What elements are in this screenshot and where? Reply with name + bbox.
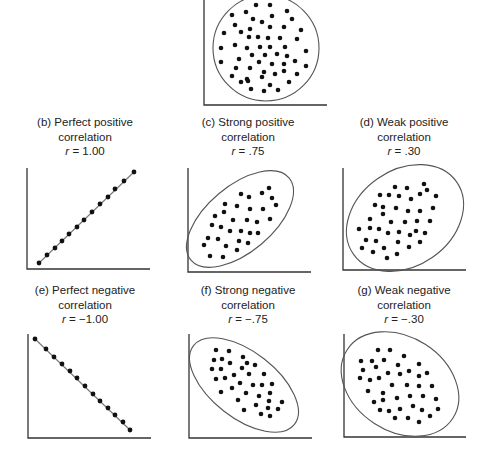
panel-a-points — [219, 3, 309, 94]
caption-d-line2: correlation — [326, 130, 482, 145]
panel-c-outline — [170, 153, 310, 286]
caption-d-r: r = .30 — [326, 144, 482, 159]
panel-f-outline — [173, 320, 314, 451]
caption-g-line1: (g) Weak negative — [326, 283, 482, 298]
caption-e-line1: (e) Perfect negative — [0, 283, 170, 298]
caption-d: (d) Weak positive correlation r = .30 — [326, 115, 482, 159]
caption-e: (e) Perfect negative correlation r = −1.… — [0, 283, 170, 327]
correlation-figure — [0, 0, 486, 465]
caption-b: (b) Perfect positive correlation r = 1.0… — [0, 115, 170, 159]
panel-d-axes — [343, 168, 466, 270]
caption-b-line2: correlation — [0, 130, 170, 145]
caption-b-line1: (b) Perfect positive — [0, 115, 170, 130]
caption-e-r: r = −1.00 — [0, 312, 170, 327]
caption-f-line2: correlation — [168, 298, 328, 313]
caption-f: (f) Strong negative correlation r = −.75 — [168, 283, 328, 327]
caption-c: (c) Strong positive correlation r = .75 — [168, 115, 328, 159]
data-points — [33, 3, 441, 433]
caption-c-line1: (c) Strong positive — [168, 115, 328, 130]
panel-f-points — [210, 348, 285, 419]
caption-b-r: r = 1.00 — [0, 144, 170, 159]
caption-g-r: r = −.30 — [326, 312, 482, 327]
panel-d-points — [357, 182, 439, 261]
panel-g-outline — [322, 310, 479, 457]
caption-f-r: r = −.75 — [168, 312, 328, 327]
caption-g: (g) Weak negative correlation r = −.30 — [326, 283, 482, 327]
panel-d-outline — [326, 143, 484, 294]
panel-c-points — [202, 186, 279, 260]
caption-g-line2: correlation — [326, 298, 482, 313]
caption-d-line1: (d) Weak positive — [326, 115, 482, 130]
panel-a-outline — [213, 0, 319, 101]
panel-g-points — [358, 348, 441, 425]
caption-c-r: r = .75 — [168, 144, 328, 159]
caption-e-line2: correlation — [0, 298, 170, 313]
caption-c-line2: correlation — [168, 130, 328, 145]
caption-f-line1: (f) Strong negative — [168, 283, 328, 298]
